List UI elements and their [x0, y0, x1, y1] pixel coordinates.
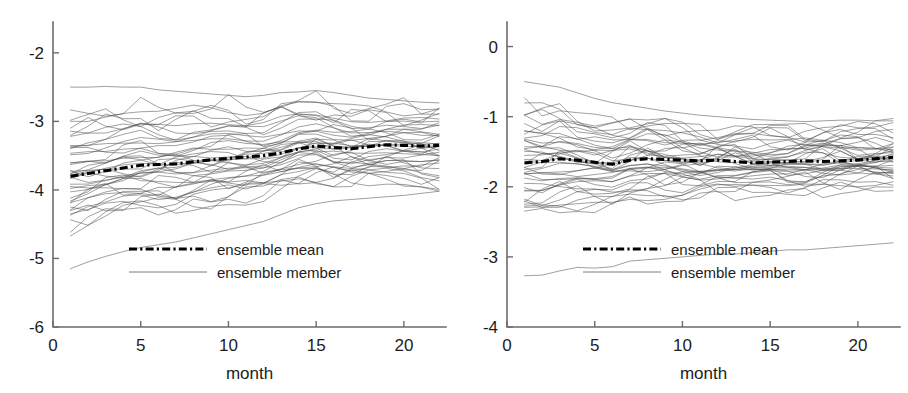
ensemble-members-group: [525, 98, 893, 213]
y-tick-label: -4: [483, 318, 498, 337]
ensemble-member-line: [525, 115, 893, 138]
x-tick-label: 5: [136, 336, 145, 355]
axis-spine: [507, 22, 900, 327]
chart-svg-left: -2-3-4-5-605101520monthensemble meanense…: [0, 0, 454, 393]
ensemble-forecast-figure: -2-3-4-5-605101520monthensemble meanense…: [0, 0, 908, 393]
chart-panel-left: -2-3-4-5-605101520monthensemble meanense…: [0, 0, 454, 393]
y-tick-label: -4: [29, 181, 44, 200]
x-tick-label: 5: [590, 336, 599, 355]
x-tick-label: 10: [219, 336, 238, 355]
x-tick-label: 20: [848, 336, 867, 355]
x-tick-label: 10: [673, 336, 692, 355]
y-tick-label: 0: [489, 38, 498, 57]
axis-spine: [53, 22, 446, 327]
legend-label: ensemble member: [217, 264, 341, 281]
ensemble-member-line: [525, 182, 893, 211]
ensemble-member-outlier-line: [71, 86, 439, 102]
ensemble-member-line: [525, 103, 893, 140]
y-tick-label: -5: [29, 249, 44, 268]
x-tick-label: 0: [48, 336, 57, 355]
y-tick-label: -2: [29, 44, 44, 63]
ensemble-member-line: [71, 124, 439, 155]
ensemble-member-outlier-line: [525, 82, 893, 122]
y-tick-label: -2: [483, 178, 498, 197]
x-tick-label: 15: [307, 336, 326, 355]
legend-label: ensemble mean: [217, 241, 324, 258]
ensemble-member-line: [525, 98, 893, 141]
y-tick-label: -1: [483, 108, 498, 127]
legend-label: ensemble mean: [671, 241, 778, 258]
chart-svg-right: 0-1-2-3-405101520monthensemble meanensem…: [454, 0, 908, 393]
x-tick-label: 20: [394, 336, 413, 355]
chart-legend: ensemble meanensemble member: [583, 241, 795, 281]
x-tick-label: 0: [502, 336, 511, 355]
x-axis-title: month: [226, 364, 273, 383]
chart-panel-right: 0-1-2-3-405101520monthensemble meanensem…: [454, 0, 908, 393]
y-tick-label: -6: [29, 318, 44, 337]
y-tick-label: -3: [29, 112, 44, 131]
legend-label: ensemble member: [671, 264, 795, 281]
ensemble-members-group: [71, 91, 439, 236]
x-axis-title: month: [680, 364, 727, 383]
y-tick-label: -3: [483, 248, 498, 267]
chart-legend: ensemble meanensemble member: [129, 241, 341, 281]
x-tick-label: 15: [761, 336, 780, 355]
